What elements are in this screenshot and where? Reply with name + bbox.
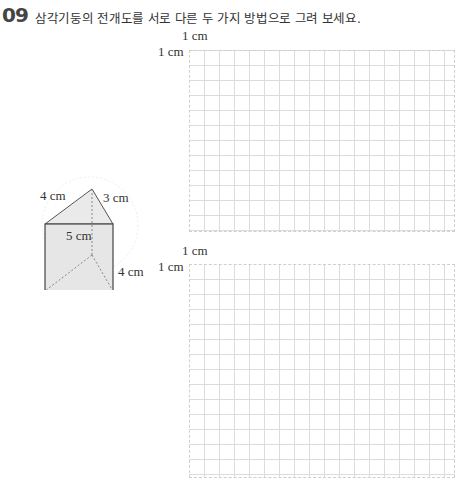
edge-label-5cm: 5 cm [66,228,92,243]
question-number: 09 [2,3,28,27]
edge-label-3cm: 3 cm [103,190,129,205]
grid2-unit-left-label: 1 cm [158,259,184,275]
grid2-unit-top-label: 1 cm [182,243,208,259]
grid1-unit-top-label: 1 cm [182,28,208,44]
question-text: 삼각기둥의 전개도를 서로 다른 두 가지 방법으로 그려 보세요. [35,8,361,27]
grid-paper-2[interactable] [189,264,455,478]
grid-paper-1[interactable] [189,50,455,232]
triangular-prism-figure: 4 cm 3 cm 5 cm 4 cm [0,170,160,290]
height-label-4cm: 4 cm [118,264,144,279]
grid1-unit-left-label: 1 cm [158,44,184,60]
edge-label-4cm: 4 cm [40,188,66,203]
